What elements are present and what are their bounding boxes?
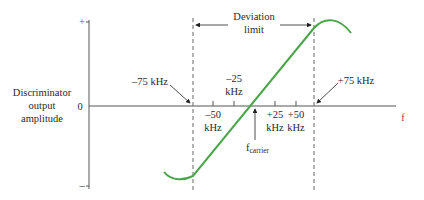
- x-axis-label: f: [401, 112, 405, 123]
- zero-label: 0: [77, 101, 82, 112]
- plus-sign: +: [79, 16, 85, 27]
- carrier-label: fcarrier: [246, 142, 270, 155]
- tick-plus25-unit: kHz: [266, 122, 284, 133]
- discriminator-s-curve-diagram: Discriminator output amplitude + 0 – f –…: [0, 0, 424, 200]
- minus-sign: –: [78, 180, 85, 191]
- tick-minus25-unit: kHz: [225, 86, 243, 97]
- deviation-label-line1: Deviation: [233, 11, 275, 22]
- plus75-pointer: [317, 83, 338, 103]
- y-axis-label-line2: output: [29, 100, 56, 111]
- tick-minus50-unit: kHz: [204, 122, 222, 133]
- deviation-label-line2: limit: [244, 24, 264, 35]
- tick-plus50-unit: kHz: [287, 122, 305, 133]
- tick-plus50-value: +50: [288, 109, 304, 120]
- minus75-label: –75 kHz: [131, 76, 168, 87]
- tick-minus25-value: –25: [225, 73, 242, 84]
- tick-minus50-value: –50: [204, 109, 221, 120]
- s-curve: [164, 20, 351, 179]
- plus75-label: +75 kHz: [338, 75, 375, 86]
- y-axis-label-line1: Discriminator: [13, 87, 72, 98]
- tick-plus25-value: +25: [267, 109, 283, 120]
- y-axis-label-line3: amplitude: [21, 113, 63, 124]
- minus75-pointer: [170, 85, 190, 103]
